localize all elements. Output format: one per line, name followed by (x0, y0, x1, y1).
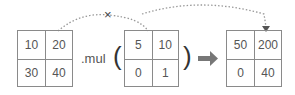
matrix-cell: 200 (254, 31, 281, 59)
dotted-arc-left (58, 15, 148, 31)
matrix-cell: 10 (18, 31, 45, 59)
matrix-cell: 0 (227, 59, 254, 87)
right-arrow-icon-shaft (198, 56, 210, 61)
blocked-x-icon: × (104, 7, 112, 22)
open-paren: ( (113, 41, 122, 72)
arg-matrix: 5 10 0 1 (124, 30, 179, 87)
matrix-cell: 40 (45, 59, 72, 87)
mul-label: .mul (81, 51, 106, 66)
matrix-cell: 40 (254, 59, 281, 87)
close-paren: ) (183, 41, 192, 72)
matrix-cell: 5 (125, 31, 152, 59)
left-matrix: 10 20 30 40 (17, 30, 73, 87)
result-matrix: 50 200 0 40 (226, 30, 282, 87)
matrix-cell: 10 (152, 31, 179, 59)
right-arrow-icon (210, 51, 218, 66)
matrix-cell: 1 (152, 59, 179, 87)
matrix-cell: 30 (18, 59, 45, 87)
matrix-cell: 50 (227, 31, 254, 59)
matrix-cell: 0 (125, 59, 152, 87)
dotted-arc-right (142, 5, 266, 27)
matrix-cell: 20 (45, 31, 72, 59)
